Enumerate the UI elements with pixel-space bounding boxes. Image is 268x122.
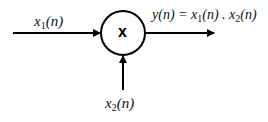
input1-label: x1(n) [34,14,63,31]
output-label: y(n) = x1(n) . x2(n) [152,8,257,24]
input2-label: x2(n) [105,96,134,113]
multiply-operator: x [118,24,127,40]
